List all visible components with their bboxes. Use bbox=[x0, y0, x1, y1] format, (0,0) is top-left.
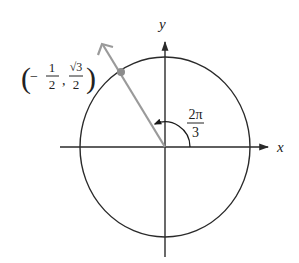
x-sign: − bbox=[30, 69, 38, 84]
angle-numerator: 2π bbox=[188, 107, 202, 122]
angle-denominator: 3 bbox=[192, 125, 199, 140]
x-denominator: 2 bbox=[49, 77, 56, 92]
point-dot bbox=[117, 68, 125, 76]
close-paren: ) bbox=[86, 61, 96, 95]
y-numerator: √3 bbox=[70, 60, 83, 74]
x-numerator: 1 bbox=[49, 60, 56, 75]
y-axis-label: y bbox=[157, 16, 166, 32]
angle-arc bbox=[155, 122, 190, 147]
point-coordinates-label: ( − 1 2 , √3 2 ) bbox=[21, 60, 96, 95]
unit-circle-diagram: x y 2π 3 ( − 1 2 , √3 2 ) bbox=[0, 0, 299, 263]
x-axis-label: x bbox=[276, 139, 284, 155]
comma: , bbox=[62, 73, 66, 88]
terminal-ray bbox=[103, 45, 165, 147]
angle-label: 2π 3 bbox=[187, 107, 204, 140]
y-denominator: 2 bbox=[73, 77, 80, 92]
